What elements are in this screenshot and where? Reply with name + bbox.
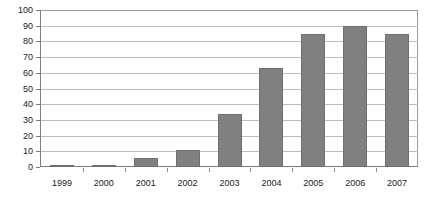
y-axis-tick-0	[36, 167, 40, 168]
x-axis-slot-2004: 2004	[250, 168, 292, 203]
x-axis-slot-2003: 2003	[209, 168, 251, 203]
bar-slot-1999	[41, 10, 83, 167]
x-axis-slot-2006: 2006	[334, 168, 376, 203]
x-axis-slot-1999: 1999	[41, 168, 83, 203]
x-axis-label-2004: 2004	[250, 179, 292, 188]
x-axis-label-1999: 1999	[41, 179, 83, 188]
x-axis-slot-2007: 2007	[376, 168, 418, 203]
bar-slot-2006	[334, 10, 376, 167]
bar-1999[interactable]	[50, 165, 74, 167]
x-axis-slot-2001: 2001	[125, 168, 167, 203]
x-axis-label-2006: 2006	[334, 179, 376, 188]
y-axis-label-90: 90	[3, 21, 33, 30]
y-axis: 100 90 80 70 60 50 40 30 20 10 0	[0, 0, 40, 203]
x-axis-label-2005: 2005	[292, 179, 334, 188]
bar-slot-2000	[83, 10, 125, 167]
bar-2001[interactable]	[134, 158, 158, 167]
bar-2000[interactable]	[92, 165, 116, 167]
y-axis-label-20: 20	[3, 131, 33, 140]
y-axis-label-10: 10	[3, 147, 33, 156]
x-axis-label-2001: 2001	[125, 179, 167, 188]
y-axis-label-100: 100	[3, 6, 33, 15]
bar-chart: 100 90 80 70 60 50 40 30 20 10 0	[0, 0, 429, 203]
x-axis-label-2000: 2000	[83, 179, 125, 188]
x-axis-label-2003: 2003	[209, 179, 251, 188]
bar-slot-2003	[209, 10, 251, 167]
x-axis-slot-2005: 2005	[292, 168, 334, 203]
x-axis-label-2002: 2002	[167, 179, 209, 188]
y-axis-label-60: 60	[3, 68, 33, 77]
y-axis-label-30: 30	[3, 115, 33, 124]
bar-slot-2001	[125, 10, 167, 167]
bar-2002[interactable]	[176, 150, 200, 167]
bar-slot-2004	[250, 10, 292, 167]
bar-slot-2007	[376, 10, 418, 167]
bar-2006[interactable]	[343, 26, 367, 167]
y-axis-label-0: 0	[3, 163, 33, 172]
bar-series	[41, 10, 418, 167]
bar-2007[interactable]	[385, 34, 409, 167]
bar-slot-2002	[167, 10, 209, 167]
y-axis-label-70: 70	[3, 53, 33, 62]
x-axis-slot-2000: 2000	[83, 168, 125, 203]
y-axis-label-50: 50	[3, 84, 33, 93]
bar-2004[interactable]	[259, 68, 283, 167]
x-axis-label-2007: 2007	[376, 179, 418, 188]
x-axis-slot-2002: 2002	[167, 168, 209, 203]
x-axis: 1999 2000 2001 2002 2003 2004 2005 2006 …	[41, 168, 418, 203]
bar-2005[interactable]	[301, 34, 325, 167]
y-axis-label-40: 40	[3, 100, 33, 109]
bar-2003[interactable]	[218, 114, 242, 167]
y-axis-label-80: 80	[3, 37, 33, 46]
bar-slot-2005	[292, 10, 334, 167]
